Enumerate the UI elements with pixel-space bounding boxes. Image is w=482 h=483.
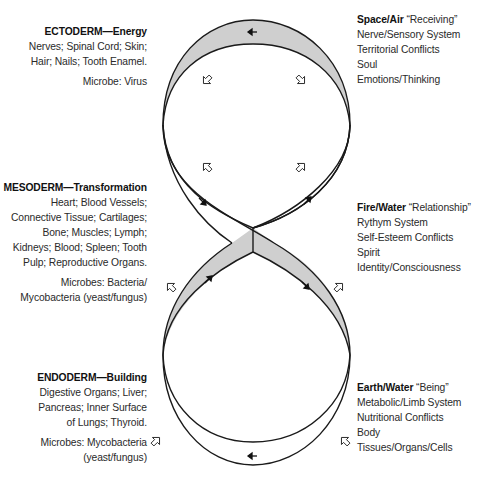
outline-arrow-icon	[200, 160, 214, 174]
lower-right-shaded-band	[253, 228, 350, 355]
fire-water-heading: Fire/Water “Relationship”	[357, 200, 482, 215]
endoderm-line: Pancreas; Inner Surface	[0, 400, 147, 415]
outline-arrow-icon	[149, 434, 163, 448]
mesoderm-microbes: Mycobacteria (yeast/fungus)	[0, 290, 147, 305]
fire-water-subtitle: “Relationship”	[409, 202, 471, 213]
outline-arrow-icon	[332, 280, 346, 294]
earth-water-line: Body	[357, 425, 482, 440]
lower-left-shaded-band	[163, 228, 253, 355]
mesoderm-title: MESODERM—Transformation	[0, 180, 147, 195]
space-air-line: Soul	[357, 57, 482, 72]
space-air-block: Space/Air “Receiving” Nerve/Sensory Syst…	[357, 12, 482, 87]
fire-water-line: Rythym System	[357, 215, 482, 230]
outline-arrow-icon	[294, 160, 308, 174]
lower-outer-curve	[163, 243, 350, 465]
space-air-heading: Space/Air “Receiving”	[357, 12, 482, 27]
earth-water-line: Metabolic/Limb System	[357, 395, 482, 410]
mesoderm-line: Bone; Muscles; Lymph;	[0, 225, 147, 240]
crossing-strand-left	[163, 125, 253, 228]
space-air-line: Territorial Conflicts	[357, 42, 482, 57]
fire-water-line: Spirit	[357, 245, 482, 260]
space-air-line: Emotions/Thinking	[357, 72, 482, 87]
upper-loop-shaded-band	[163, 20, 350, 125]
space-air-subtitle: “Receiving”	[406, 14, 457, 25]
earth-water-title: Earth/Water	[357, 382, 413, 393]
outline-arrow-icon	[164, 280, 178, 294]
outline-arrow-icon	[338, 434, 352, 448]
crossing-strand-right	[253, 125, 350, 228]
space-air-line: Nerve/Sensory System	[357, 27, 482, 42]
ectoderm-line: Hair; Nails; Tooth Enamel.	[0, 54, 147, 69]
ectoderm-title: ECTODERM—Energy	[0, 24, 147, 39]
ectoderm-line: Nerves; Spinal Cord; Skin;	[0, 39, 147, 54]
earth-water-block: Earth/Water “Being” Metabolic/Limb Syste…	[357, 380, 482, 455]
mesoderm-microbes: Microbes: Bacteria/	[0, 275, 147, 290]
endoderm-microbes: (yeast/fungus)	[0, 450, 147, 465]
left-arrow-bottom-icon	[248, 453, 257, 459]
fire-water-block: Fire/Water “Relationship” Rythym System …	[357, 200, 482, 275]
endoderm-line: of Lungs; Thyroid.	[0, 415, 147, 430]
endoderm-title: ENDODERM—Building	[0, 370, 147, 385]
ectoderm-block: ECTODERM—Energy Nerves; Spinal Cord; Ski…	[0, 24, 147, 89]
mesoderm-line: Pulp; Reproductive Organs.	[0, 255, 147, 270]
endoderm-block: ENDODERM—Building Digestive Organs; Live…	[0, 370, 147, 465]
endoderm-microbes: Microbes: Mycobacteria	[0, 435, 147, 450]
ectoderm-microbe: Microbe: Virus	[0, 74, 147, 89]
earth-water-line: Tissues/Organs/Cells	[357, 440, 482, 455]
mesoderm-block: MESODERM—Transformation Heart; Blood Ves…	[0, 180, 147, 305]
mesoderm-line: Kidneys; Blood; Spleen; Tooth	[0, 240, 147, 255]
earth-water-line: Nutritional Conflicts	[357, 410, 482, 425]
endoderm-line: Digestive Organs; Liver;	[0, 385, 147, 400]
upper-inner-curve	[163, 44, 350, 243]
earth-water-heading: Earth/Water “Being”	[357, 380, 482, 395]
fire-water-title: Fire/Water	[357, 202, 406, 213]
outline-arrow-icon	[200, 73, 214, 87]
earth-water-subtitle: “Being”	[416, 382, 449, 393]
fire-water-line: Identity/Consciousness	[357, 260, 482, 275]
mesoderm-line: Connective Tissue; Cartilages;	[0, 210, 147, 225]
space-air-title: Space/Air	[357, 14, 404, 25]
outline-arrow-icon	[294, 73, 308, 87]
mesoderm-line: Heart; Blood Vessels;	[0, 195, 147, 210]
fire-water-line: Self-Esteem Conflicts	[357, 230, 482, 245]
